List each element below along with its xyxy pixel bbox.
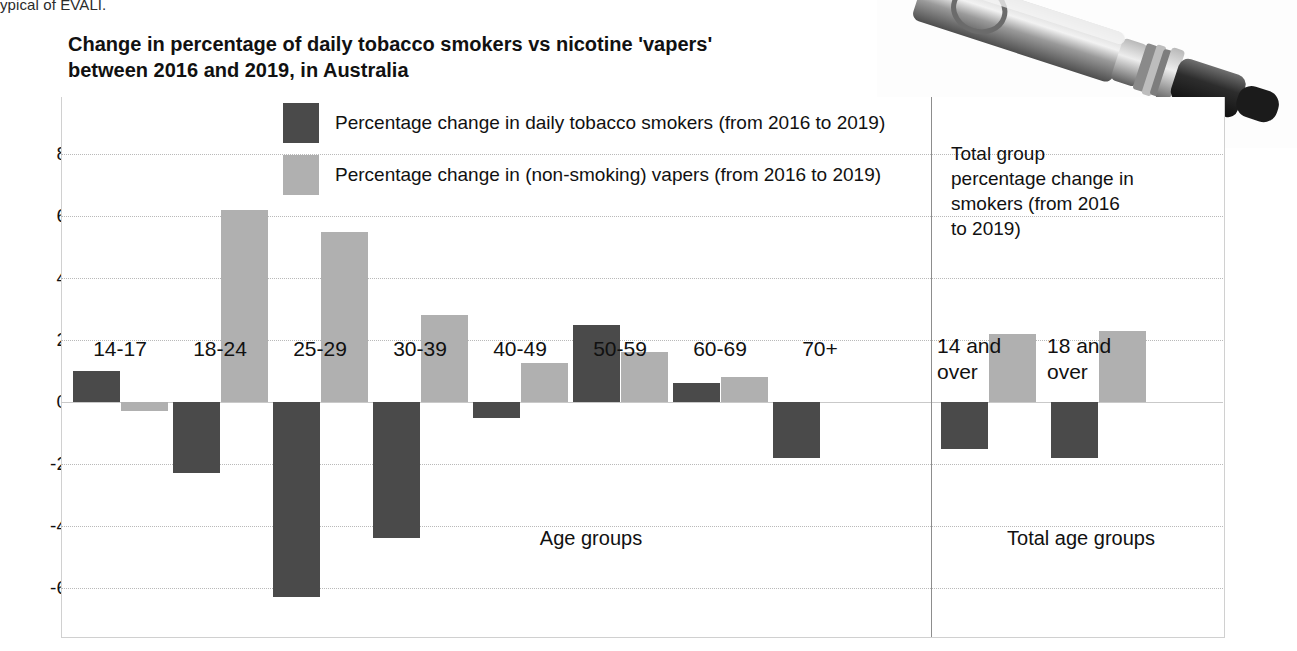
x-axis-caption-age-groups: Age groups [481, 527, 701, 550]
bar-60-69-vapers [721, 377, 768, 402]
bar-60-69-smokers [673, 383, 720, 402]
legend-entry-smokers: Percentage change in daily tobacco smoke… [283, 103, 885, 143]
group-label-40-49: 40-49 [473, 337, 567, 361]
bar-40-49-smokers [473, 402, 520, 418]
legend-entry-vapers: Percentage change in (non-smoking) vaper… [283, 155, 881, 195]
bar-14-17-smokers [73, 371, 120, 402]
bar-25-29-smokers [273, 402, 320, 597]
gridline-0 [61, 402, 1223, 403]
group-label-18-and-over: 18 and over [1047, 333, 1137, 386]
group-label-14-and-over: 14 and over [937, 333, 1027, 386]
chart-title-line-1: Change in percentage of daily tobacco sm… [68, 32, 948, 58]
group-divider [931, 97, 932, 637]
gridline--2 [61, 464, 1223, 465]
bar-14-and-over-smokers [941, 402, 988, 449]
bar-18-24-vapers [221, 210, 268, 402]
group-label-70+: 70+ [773, 337, 867, 361]
group-label-50-59: 50-59 [573, 337, 667, 361]
bar-18-24-smokers [173, 402, 220, 473]
bar-40-49-vapers [521, 363, 568, 402]
legend-swatch-smokers [283, 103, 319, 143]
cut-off-article-text: ypical of EVALI. [0, 0, 300, 18]
plot-area: Percentage change in daily tobacco smoke… [61, 97, 1223, 637]
total-group-annotation: Total group percentage change in smokers… [951, 141, 1136, 241]
legend-label-smokers: Percentage change in daily tobacco smoke… [335, 112, 885, 134]
chart-title-line-2: between 2016 and 2019, in Australia [68, 58, 948, 84]
group-label-30-39: 30-39 [373, 337, 467, 361]
x-axis-caption-total-groups: Total age groups [971, 527, 1191, 550]
gridline--6 [61, 588, 1223, 589]
bar-70+-smokers [773, 402, 820, 458]
legend-label-vapers: Percentage change in (non-smoking) vaper… [335, 164, 881, 186]
chart-page: ypical of EVALI. [0, 0, 1297, 651]
bar-18-and-over-smokers [1051, 402, 1098, 458]
group-label-25-29: 25-29 [273, 337, 367, 361]
bar-14-17-vapers [121, 402, 168, 411]
group-label-14-17: 14-17 [73, 337, 167, 361]
bar-25-29-vapers [321, 232, 368, 403]
bar-30-39-smokers [373, 402, 420, 538]
chart-title: Change in percentage of daily tobacco sm… [68, 32, 948, 83]
group-label-18-24: 18-24 [173, 337, 267, 361]
group-label-60-69: 60-69 [673, 337, 767, 361]
legend-swatch-vapers [283, 155, 319, 195]
